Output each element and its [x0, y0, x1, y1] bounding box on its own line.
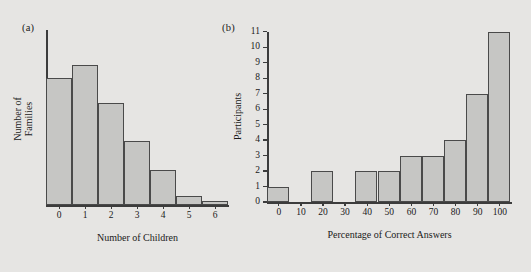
panel-b-y-axis	[267, 32, 269, 202]
tick-b-y-9: 9	[238, 57, 260, 67]
tickmark-b-x-90	[477, 202, 478, 206]
tickmark-b-y-11	[263, 31, 267, 32]
bar-a-2	[98, 103, 124, 205]
tick-a-x-1: 1	[75, 210, 95, 220]
tickmark-a-x-5	[189, 205, 190, 209]
tickmark-a-x-4	[163, 205, 164, 209]
tickmark-b-x-30	[344, 202, 345, 206]
tick-b-x-10: 100	[490, 207, 510, 217]
bar-b-10	[488, 32, 510, 202]
tickmark-b-x-100	[499, 202, 500, 206]
panel-b-xlabel: Percentage of Correct Answers	[267, 229, 512, 240]
tick-b-x-4: 40	[357, 207, 377, 217]
tick-b-y-11: 11	[236, 26, 260, 36]
panel-a-ylabel-line1: Number of	[12, 97, 23, 141]
bar-b-8	[444, 140, 466, 202]
tickmark-a-x-0	[59, 205, 60, 209]
tickmark-b-x-60	[411, 202, 412, 206]
tick-b-x-6: 60	[401, 207, 421, 217]
panel-a-ylabel-line2: Families	[23, 102, 34, 136]
tick-b-y-1: 1	[238, 181, 260, 191]
tickmark-a-x-1	[85, 205, 86, 209]
tickmark-b-x-10	[300, 202, 301, 206]
tick-b-x-9: 90	[468, 207, 488, 217]
bar-b-7	[422, 156, 444, 203]
tick-b-x-0: 0	[269, 207, 289, 217]
tickmark-b-x-0	[278, 202, 279, 206]
tickmark-b-y-0	[263, 201, 267, 202]
tickmark-b-x-20	[322, 202, 323, 206]
tick-a-x-2: 2	[101, 210, 121, 220]
tick-b-x-2: 20	[313, 207, 333, 217]
panel-b-ylabel: Participants	[232, 72, 243, 162]
tickmark-b-y-5	[263, 124, 267, 125]
figure-container: (a) 0 1 2 3 4 5 6 Number of Children Num…	[0, 0, 531, 272]
tick-b-y-0: 0	[238, 196, 260, 206]
tickmark-b-x-40	[367, 202, 368, 206]
tick-a-x-3: 3	[127, 210, 147, 220]
tick-b-x-5: 50	[379, 207, 399, 217]
tickmark-b-x-80	[455, 202, 456, 206]
panel-b: (b) 0 1 2 3 4 5 6 7 8	[200, 0, 531, 272]
tickmark-b-y-8	[263, 78, 267, 79]
bar-b-5	[378, 171, 400, 202]
tick-b-x-1: 10	[291, 207, 311, 217]
tick-b-x-3: 30	[335, 207, 355, 217]
tickmark-b-y-10	[263, 47, 267, 48]
bar-a-4	[150, 170, 176, 205]
tick-b-x-7: 70	[424, 207, 444, 217]
tick-a-x-5: 5	[179, 210, 199, 220]
bar-b-0	[267, 187, 289, 203]
tickmark-b-y-2	[263, 170, 267, 171]
tickmark-b-x-70	[433, 202, 434, 206]
bar-a-5	[176, 196, 202, 205]
tickmark-b-y-6	[263, 109, 267, 110]
bar-a-1	[72, 65, 98, 205]
tick-b-y-2: 2	[238, 165, 260, 175]
tick-b-y-10: 10	[236, 41, 260, 51]
tickmark-a-x-3	[137, 205, 138, 209]
bar-b-6	[400, 156, 422, 203]
bar-b-4	[355, 171, 377, 202]
bar-b-2	[311, 171, 333, 202]
tickmark-b-y-3	[263, 155, 267, 156]
panel-b-label: (b)	[222, 22, 235, 33]
tickmark-a-x-2	[111, 205, 112, 209]
tickmark-b-y-1	[263, 186, 267, 187]
bar-a-0	[46, 78, 72, 205]
bar-a-3	[124, 141, 150, 205]
panel-a-ylabel: Number of Families	[12, 74, 34, 164]
bar-b-9	[466, 94, 488, 203]
tickmark-b-x-50	[389, 202, 390, 206]
panel-a-label: (a)	[22, 22, 34, 33]
tickmark-b-y-4	[263, 139, 267, 140]
tickmark-b-y-9	[263, 62, 267, 63]
tickmark-b-y-7	[263, 93, 267, 94]
tick-b-x-8: 80	[446, 207, 466, 217]
tick-a-x-4: 4	[153, 210, 173, 220]
tick-a-x-0: 0	[49, 210, 69, 220]
